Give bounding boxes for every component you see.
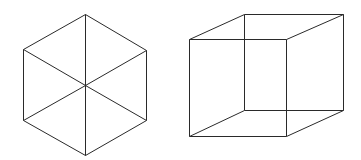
cube-edge-front-top-left-back-top-left [190, 15, 245, 40]
diagram-canvas [0, 0, 361, 160]
cube-edge-front-bottom-right-back-bottom-right [287, 111, 344, 137]
hexagon-edge-bottom-lower-left [24, 121, 86, 156]
hexagon-edge-center-lower-left [24, 86, 86, 121]
hexagon-edge-top-upper-right [86, 15, 147, 51]
hexagon-edge-upper-left-top [24, 15, 86, 50]
cube-edge-front-top-right-back-top-right [287, 15, 344, 40]
hexagon-edge-upper-right-center [86, 51, 147, 86]
hexagon-edge-center-lower-right [86, 86, 147, 121]
cube-edge-front-bottom-left-back-bottom-left [190, 111, 245, 137]
hexagon-figure [24, 15, 147, 156]
hexagon-edge-lower-right-bottom [86, 121, 147, 156]
hexagon-edge-upper-left-center [24, 50, 86, 86]
cube-figure [190, 15, 344, 137]
